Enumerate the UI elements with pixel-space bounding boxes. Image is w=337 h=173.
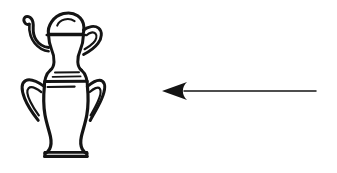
body-left-outline: [44, 86, 51, 153]
left-pointing-arrow: [162, 82, 316, 100]
loop-handle-left-inner-line: [27, 87, 41, 115]
shoulder-right-outline: [81, 70, 87, 86]
dome-lid-icon: [48, 13, 84, 34]
neck-left-outline: [49, 35, 54, 70]
lid-inner-arc-icon: [57, 19, 74, 26]
ear-handle-right-icon: [83, 26, 101, 54]
figure-canvas: [0, 0, 337, 173]
spout-icon: [24, 16, 49, 47]
loop-handle-left-icon: [22, 80, 44, 121]
shoulder-left-outline: [44, 70, 50, 86]
line-art-illustration: [0, 0, 337, 173]
body-right-outline: [81, 86, 88, 153]
neck-right-outline: [78, 35, 84, 70]
lidded-amphora-vase: [22, 13, 104, 156]
